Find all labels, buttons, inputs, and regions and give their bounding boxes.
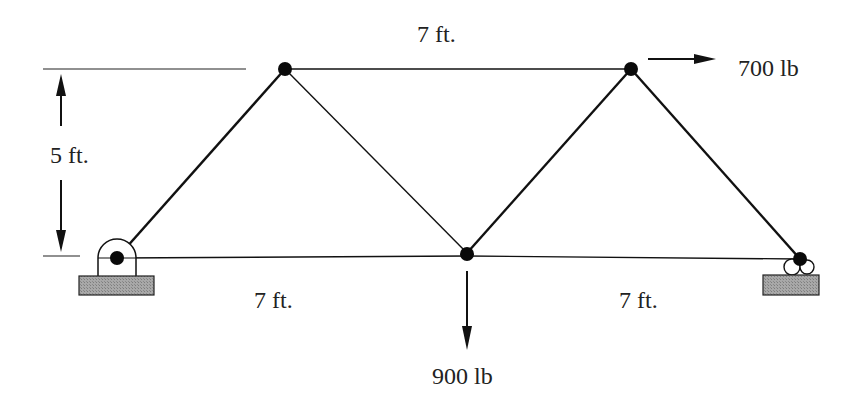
- roller-support-icon: [763, 259, 819, 295]
- vertical-load-label: 900 lb: [432, 363, 493, 389]
- joint-C: [460, 247, 474, 261]
- height-dimension-arrow-up-icon: [56, 74, 66, 126]
- truss-members: [117, 69, 800, 259]
- joint-D: [624, 62, 638, 76]
- member-CD: [467, 69, 631, 253]
- member-AC: [117, 256, 467, 258]
- member-BC: [285, 69, 467, 253]
- pin-support-icon: [79, 239, 154, 295]
- truss-canvas: 7 ft. 5 ft. 7 ft. 7 ft. 700 lb 900 lb: [0, 0, 853, 399]
- bottom-right-span-label: 7 ft.: [619, 287, 658, 313]
- joint-B: [278, 62, 292, 76]
- vertical-load-arrow-icon: [462, 271, 472, 350]
- bottom-left-span-label: 7 ft.: [254, 287, 293, 313]
- horizontal-load-label: 700 lb: [738, 55, 799, 81]
- member-CE: [467, 256, 800, 259]
- joint-E: [793, 252, 807, 266]
- joint-A: [110, 251, 124, 265]
- height-label: 5 ft.: [50, 142, 89, 168]
- top-span-label: 7 ft.: [417, 21, 456, 47]
- truss-diagram: 7 ft. 5 ft. 7 ft. 7 ft. 700 lb 900 lb: [0, 0, 853, 399]
- horizontal-load-arrow-icon: [648, 54, 716, 64]
- member-DE: [631, 69, 800, 259]
- member-AB: [117, 69, 285, 258]
- height-dimension-arrow-down-icon: [56, 180, 66, 252]
- truss-joints: [110, 62, 807, 266]
